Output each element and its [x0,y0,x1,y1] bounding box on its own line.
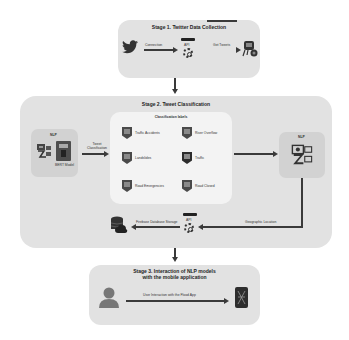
api-gear-icon [183,48,193,58]
connection-arrow [144,49,174,51]
to-nlp-right-arrow [234,153,274,155]
connection-label: Connection [145,43,162,47]
nlp-left-title: NLP [50,133,57,137]
car-accident-icon [122,127,132,139]
database-cloud-icon [110,216,128,234]
class-label-road-emergencies: Road Emergencies [135,184,164,188]
class-label-traffic-accidents: Traffic Accidents [135,131,160,135]
twitter-bird-icon [122,40,138,54]
tweet-classification-arrow [82,153,105,155]
mobile-app-icon [235,287,248,308]
class-label-landslides: Landslides [135,156,151,160]
user-interaction-label: User Interaction with the Flood App [143,293,196,297]
nlp-left-box: NLP BERT Model [31,129,78,177]
stage2-panel: Stage 2. Tweet Classification NLP BERT M… [20,96,332,248]
api-bar-icon [181,38,195,41]
road-closed-icon [182,180,192,192]
stage1-title: Stage 1. Twitter Data Collection [118,24,260,30]
stage3-title-line2: with the mobile application [89,274,260,280]
classification-labels-title: Classification labels [110,115,232,119]
tweet-classification-arrowhead [104,151,109,157]
user-interaction-arrow [126,300,225,302]
river-icon [182,127,192,139]
stage2-title: Stage 2. Tweet Classification [20,101,332,107]
stage2-to-stage3-arrowhead [172,257,178,262]
bert-model-icon [56,141,71,161]
user-icon [98,286,120,308]
api-gear-icon [184,223,194,233]
to-nlp-right-arrowhead [273,151,278,157]
nlp-right-box: NLP [279,132,325,178]
nlp-right-title: NLP [298,135,305,139]
geo-location-arrowhead [198,224,203,230]
firebase-arrowhead [131,224,136,230]
traffic-light-icon [182,152,192,164]
connection-arrowhead [173,47,178,53]
geo-location-line-horizontal [202,226,303,228]
api-label-bottom: API [186,218,191,222]
class-label-road-closed: Road Closed [195,184,215,188]
nlp-robot-icon [291,144,313,166]
firebase-arrow [135,226,180,228]
get-tweets-label: Get Tweets [213,43,230,47]
get-tweets-arrow [207,20,237,22]
stage1-panel: Stage 1. Twitter Data Collection Connect… [118,20,260,78]
stage3-panel: Stage 3. Interaction of NLP models with … [89,265,260,325]
landslide-icon [122,152,132,164]
tweet-classification-label: Tweet Classification [86,142,108,150]
api-label: API [184,43,189,47]
geo-location-line-vertical [301,178,303,228]
user-interaction-arrowhead [224,298,229,304]
emergency-siren-icon [122,180,132,192]
stage1-to-stage2-arrowhead [172,89,178,94]
tweet-classification-text: Tweet Classification [87,142,107,150]
tweet-data-icon [242,40,258,57]
bert-model-label: BERT Model [55,163,74,167]
class-label-river-overflow: River Overflow [195,131,217,135]
firebase-label: Firebase Database Storage [136,220,177,224]
nlp-robot-icon [36,143,52,159]
api-bar-icon [183,213,197,216]
classification-labels-box: Classification labels Traffic Accidents … [110,112,232,204]
class-label-traffic: Traffic [195,156,204,160]
geographic-location-label: Geographic Location [245,220,276,224]
get-tweets-arrowhead [236,47,241,53]
